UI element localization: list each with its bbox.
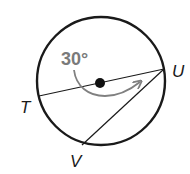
angle-label: 30° — [61, 49, 88, 69]
point-label-V: V — [70, 152, 83, 171]
point-label-U: U — [172, 62, 185, 81]
angle-arrow-arc — [74, 70, 140, 96]
circle-diagram: 30° T U V — [0, 0, 190, 174]
center-dot — [95, 78, 105, 88]
point-label-T: T — [20, 98, 32, 117]
chord-UV — [82, 69, 164, 145]
